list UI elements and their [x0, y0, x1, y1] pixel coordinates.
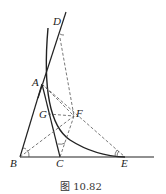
label-f: F — [75, 107, 83, 119]
angle-mark-d — [60, 34, 64, 35]
segment-df — [60, 38, 74, 116]
label-d: D — [52, 15, 61, 27]
angle-marks — [23, 34, 119, 157]
curve-arc — [46, 28, 125, 157]
label-b: B — [10, 157, 17, 169]
segment-fc — [60, 116, 74, 157]
dashed-lines — [20, 38, 125, 157]
solid-lines — [20, 12, 154, 157]
segment-gf — [48, 114, 74, 116]
label-c: C — [56, 157, 64, 169]
figure-caption: 图 10.82 — [60, 181, 102, 192]
label-a: A — [31, 76, 39, 88]
line-ad — [38, 12, 66, 98]
angle-mark-b1 — [27, 150, 29, 157]
geometry-figure: D A G F B C E 图 10.82 — [0, 0, 166, 194]
angle-mark-b2 — [23, 148, 26, 149]
label-e: E — [120, 157, 128, 169]
segment-ac — [42, 84, 60, 157]
angle-mark-c — [58, 143, 65, 144]
label-g: G — [39, 108, 47, 120]
